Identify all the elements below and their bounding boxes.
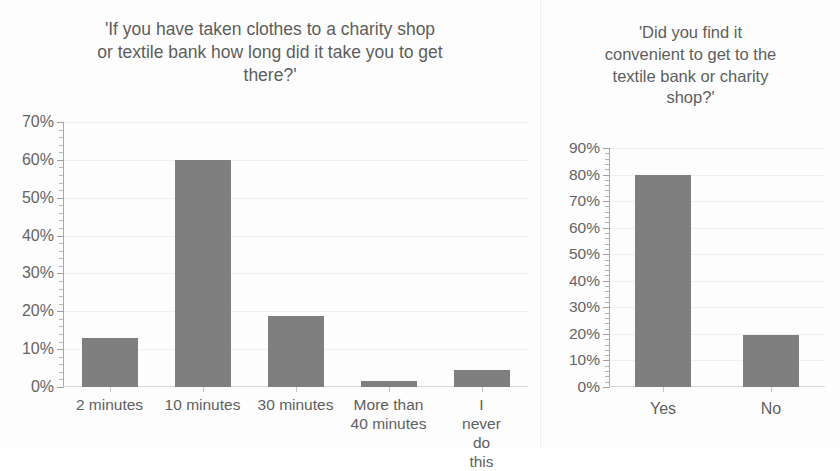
y-axis-tick-minor	[605, 244, 609, 245]
y-axis-tick-major	[603, 360, 610, 361]
gridline	[63, 160, 528, 161]
y-axis-tick-minor	[605, 355, 609, 356]
bar-left-1	[175, 160, 231, 387]
y-axis-tick-label: 50%	[22, 189, 54, 207]
y-axis-tick-minor	[59, 183, 63, 184]
gridline	[63, 122, 528, 123]
y-axis-tick-minor	[59, 130, 63, 131]
y-axis-tick-minor	[605, 382, 609, 383]
y-axis-tick-minor	[59, 243, 63, 244]
y-axis-tick-minor	[605, 260, 609, 261]
bar-right-0	[635, 175, 691, 387]
gridline	[63, 236, 528, 237]
y-axis-tick-minor	[605, 350, 609, 351]
y-axis-tick-minor	[605, 164, 609, 165]
y-axis-tick-major	[603, 281, 610, 282]
bar-left-0	[82, 338, 138, 387]
y-axis-tick-minor	[605, 169, 609, 170]
y-axis-tick-label: 90%	[569, 139, 600, 157]
y-axis-tick-minor	[605, 206, 609, 207]
x-axis-tick	[296, 387, 297, 392]
y-axis-tick-label: 70%	[569, 192, 600, 210]
y-axis-tick-major	[57, 122, 64, 123]
y-axis-tick-major	[603, 334, 610, 335]
y-axis-tick-minor	[59, 205, 63, 206]
y-axis-tick-minor	[605, 222, 609, 223]
y-axis-tick-minor	[605, 196, 609, 197]
gridline	[63, 273, 528, 274]
y-axis-tick-minor	[605, 302, 609, 303]
chart-panel-right: 'Did you find it convenient to get to th…	[540, 0, 840, 448]
y-axis-tick-minor	[59, 357, 63, 358]
y-axis-tick-label: 60%	[569, 219, 600, 237]
y-axis-tick-label: 70%	[22, 113, 54, 131]
y-axis-tick-minor	[605, 345, 609, 346]
x-axis-tick	[203, 387, 204, 392]
y-axis-tick-label: 60%	[22, 151, 54, 169]
y-axis-tick-minor	[605, 249, 609, 250]
y-axis-tick-label: 80%	[569, 166, 600, 184]
x-axis-tick-label: I never do this	[458, 396, 505, 471]
y-axis-tick-major	[57, 387, 64, 388]
y-axis-tick-minor	[605, 238, 609, 239]
y-axis-tick-minor	[605, 371, 609, 372]
y-axis-tick-minor	[605, 291, 609, 292]
plot-area-left: 0%10%20%30%40%50%60%70%2 minutes10 minut…	[63, 122, 528, 387]
y-axis-tick-minor	[59, 190, 63, 191]
y-axis-tick-major	[57, 236, 64, 237]
y-axis-tick-minor	[59, 289, 63, 290]
y-axis-tick-minor	[59, 228, 63, 229]
y-axis-tick-major	[603, 201, 610, 202]
y-axis-tick-major	[57, 198, 64, 199]
y-axis-tick-major	[57, 273, 64, 274]
y-axis-tick-major	[57, 311, 64, 312]
plot-area-right: 0%10%20%30%40%50%60%70%80%90%YesNo	[609, 148, 825, 387]
y-axis-tick-minor	[605, 212, 609, 213]
y-axis-tick-label: 50%	[569, 245, 600, 263]
y-axis-tick-minor	[59, 137, 63, 138]
y-axis-tick-major	[57, 349, 64, 350]
y-axis-tick-label: 30%	[569, 298, 600, 316]
y-axis-tick-minor	[59, 152, 63, 153]
x-axis-tick-label: 30 minutes	[258, 396, 334, 415]
y-axis-tick-minor	[605, 376, 609, 377]
y-axis-tick-label: 20%	[569, 325, 600, 343]
gridline	[609, 148, 825, 149]
x-axis-tick	[663, 387, 664, 392]
y-axis-tick-major	[57, 160, 64, 161]
x-axis-tick-label: 2 minutes	[76, 396, 143, 415]
y-axis-tick-minor	[59, 175, 63, 176]
y-axis-tick-minor	[605, 366, 609, 367]
y-axis-tick-minor	[59, 213, 63, 214]
y-axis-tick-minor	[605, 297, 609, 298]
y-axis-tick-label: 0%	[578, 378, 600, 396]
y-axis-tick-minor	[59, 379, 63, 380]
plot-wrapper-right: 0%10%20%30%40%50%60%70%80%90%YesNo	[541, 0, 840, 448]
x-axis-tick	[771, 387, 772, 392]
y-axis-tick-minor	[59, 167, 63, 168]
y-axis-tick-minor	[59, 326, 63, 327]
y-axis-tick-minor	[605, 190, 609, 191]
chart-panel-left: 'If you have taken clothes to a charity …	[0, 0, 540, 448]
y-axis-tick-minor	[605, 233, 609, 234]
y-axis-tick-major	[603, 228, 610, 229]
y-axis-tick-minor	[605, 313, 609, 314]
y-axis-tick-minor	[59, 372, 63, 373]
y-axis-tick-label: 20%	[22, 302, 54, 320]
y-axis-tick-minor	[59, 251, 63, 252]
y-axis-tick-minor	[605, 323, 609, 324]
y-axis-tick-minor	[605, 153, 609, 154]
plot-wrapper-left: 0%10%20%30%40%50%60%70%2 minutes10 minut…	[0, 0, 540, 448]
y-axis-tick-minor	[59, 281, 63, 282]
y-axis-tick-minor	[605, 185, 609, 186]
y-axis-tick-minor	[59, 220, 63, 221]
y-axis-line-left	[63, 122, 64, 387]
x-axis-tick	[482, 387, 483, 392]
y-axis-tick-minor	[605, 159, 609, 160]
y-axis-tick-minor	[59, 364, 63, 365]
y-axis-tick-minor	[605, 286, 609, 287]
bar-right-1	[743, 335, 799, 387]
y-axis-tick-minor	[605, 265, 609, 266]
y-axis-tick-minor	[59, 334, 63, 335]
